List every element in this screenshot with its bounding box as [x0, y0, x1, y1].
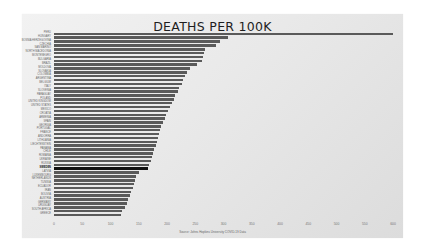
bar [54, 148, 154, 151]
bar [54, 171, 139, 174]
bar [54, 183, 134, 186]
bar [54, 175, 136, 178]
bar [54, 56, 203, 59]
bar-plot-area: PERUHUNGARYBOSNIA HERZEGOVINACZECHIASAN … [54, 32, 394, 217]
x-tick-label: 200 [164, 222, 170, 226]
bar [54, 194, 130, 197]
bar [54, 137, 158, 140]
bar [54, 167, 148, 170]
bar [54, 67, 190, 70]
x-tick-label: 250 [192, 222, 198, 226]
bar [54, 106, 170, 109]
bar [54, 110, 168, 113]
bar [54, 79, 183, 82]
bar [54, 102, 172, 105]
bar [54, 214, 121, 217]
x-tick-label: 350 [249, 222, 255, 226]
x-tick-label: 300 [221, 222, 227, 226]
bar [54, 117, 165, 120]
bar [54, 160, 151, 163]
bar [54, 52, 204, 55]
bar [54, 202, 127, 205]
x-tick-label: 50 [80, 222, 84, 226]
x-tick-label: 0 [53, 222, 55, 226]
x-tick-label: 150 [136, 222, 142, 226]
bar [54, 198, 128, 201]
category-label: GREECE [40, 212, 51, 216]
bar [54, 90, 178, 93]
bar [54, 129, 160, 132]
bar [54, 63, 197, 66]
x-axis-title: Source: Johns Hopkins University COVID-1… [22, 230, 403, 234]
bar [54, 152, 153, 155]
bar [54, 94, 175, 97]
bar [54, 191, 131, 194]
bar [54, 206, 125, 209]
bar [54, 121, 163, 124]
bar [54, 133, 159, 136]
bar [54, 33, 393, 36]
x-tick-label: 600 [390, 222, 396, 226]
bar [54, 60, 202, 63]
bar [54, 114, 166, 117]
bar [54, 71, 187, 74]
bar [54, 44, 216, 47]
x-tick-label: 400 [277, 222, 283, 226]
bar [54, 40, 220, 43]
bar [54, 187, 133, 190]
bar [54, 156, 152, 159]
bar [54, 36, 228, 39]
chart-panel: DEATHS PER 100K PERUHUNGARYBOSNIA HERZEG… [22, 14, 403, 238]
x-tick-label: 450 [305, 222, 311, 226]
x-tick-label: 550 [362, 222, 368, 226]
bar [54, 87, 179, 90]
bar [54, 83, 182, 86]
bar [54, 164, 149, 167]
bar [54, 75, 185, 78]
bar [54, 98, 174, 101]
x-tick-label: 100 [108, 222, 114, 226]
bar [54, 48, 205, 51]
x-tick-label: 500 [334, 222, 340, 226]
bar-row: GREECE [54, 213, 393, 217]
bar [54, 210, 122, 213]
bar [54, 141, 157, 144]
bar [54, 125, 161, 128]
bar [54, 179, 135, 182]
x-axis: 050100150200250300350400450500550600 [54, 222, 394, 230]
bar [54, 144, 156, 147]
